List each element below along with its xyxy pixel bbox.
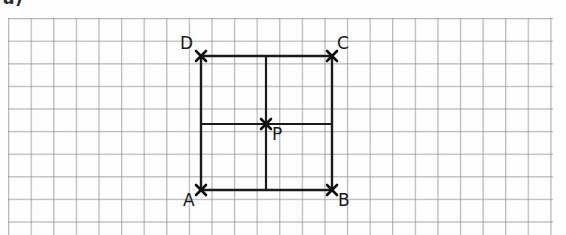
scanned-worksheet-page: a) D C P A B <box>0 0 566 235</box>
point-label-a: A <box>183 192 195 209</box>
geometry-figure <box>0 0 566 235</box>
point-label-d: D <box>180 35 193 52</box>
point-label-c: C <box>337 35 349 52</box>
point-label-p: P <box>272 126 282 143</box>
point-label-b: B <box>338 192 350 209</box>
